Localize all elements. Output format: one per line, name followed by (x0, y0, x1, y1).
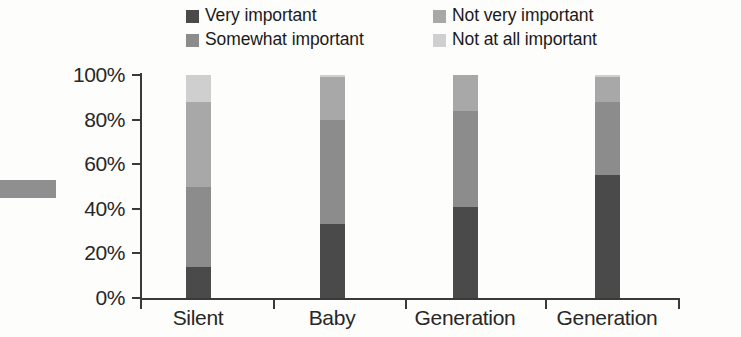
x-axis-tick-label: Generation (415, 306, 516, 330)
y-axis-tick-label: 60% (30, 152, 125, 176)
chart-legend: Very important Somewhat important Not ve… (186, 4, 706, 52)
x-axis-tick (678, 300, 680, 309)
legend-swatch-not-very-important (433, 10, 446, 23)
bar-3[interactable] (595, 75, 620, 298)
legend-column-right: Not very important Not at all important (433, 4, 597, 52)
bar-segment[interactable] (453, 111, 478, 207)
bar-segment[interactable] (186, 187, 211, 267)
bar-segment[interactable] (320, 120, 345, 225)
x-axis-tick (545, 300, 547, 309)
legend-item-somewhat-important[interactable]: Somewhat important (186, 28, 364, 52)
legend-swatch-somewhat-important (186, 34, 199, 47)
legend-item-not-very-important[interactable]: Not very important (433, 4, 597, 28)
legend-column-left: Very important Somewhat important (186, 4, 364, 52)
y-axis-tick-label: 40% (30, 197, 125, 221)
y-axis-tick-label: 0% (30, 286, 125, 310)
bar-segment[interactable] (186, 267, 211, 298)
bar-segment[interactable] (453, 207, 478, 298)
bar-2[interactable] (453, 75, 478, 298)
bar-segment[interactable] (453, 75, 478, 111)
legend-label-not-at-all-important: Not at all important (452, 31, 597, 49)
x-axis-tick-label: Silent (173, 306, 224, 330)
legend-label-not-very-important: Not very important (452, 7, 593, 25)
legend-label-somewhat-important: Somewhat important (205, 31, 364, 49)
plot-area (140, 75, 678, 298)
bar-segment[interactable] (595, 77, 620, 102)
x-axis-tick (140, 300, 142, 309)
legend-swatch-not-at-all-important (433, 34, 446, 47)
bar-segment[interactable] (595, 175, 620, 298)
legend-item-not-at-all-important[interactable]: Not at all important (433, 28, 597, 52)
legend-label-very-important: Very important (205, 7, 316, 25)
bar-segment[interactable] (595, 102, 620, 176)
chart-container: Very important Somewhat important Not ve… (0, 0, 741, 337)
bar-segment[interactable] (320, 75, 345, 77)
bar-0[interactable] (186, 75, 211, 298)
bar-segment[interactable] (595, 75, 620, 77)
y-axis-tick-label: 100% (30, 63, 125, 87)
x-axis-tick-label: Baby (309, 306, 356, 330)
y-axis-tick-label: 20% (30, 241, 125, 265)
legend-item-very-important[interactable]: Very important (186, 4, 364, 28)
bar-1[interactable] (320, 75, 345, 298)
bar-segment[interactable] (320, 77, 345, 119)
x-axis-tick (405, 300, 407, 309)
x-axis-tick-label: Generation (557, 306, 658, 330)
legend-swatch-very-important (186, 10, 199, 23)
x-axis-tick (273, 300, 275, 309)
bar-segment[interactable] (186, 75, 211, 102)
bar-segment[interactable] (186, 102, 211, 187)
x-axis-line (140, 298, 680, 300)
scan-artifact-strip (0, 180, 56, 198)
bar-segment[interactable] (320, 224, 345, 298)
y-axis-tick-label: 80% (30, 108, 125, 132)
